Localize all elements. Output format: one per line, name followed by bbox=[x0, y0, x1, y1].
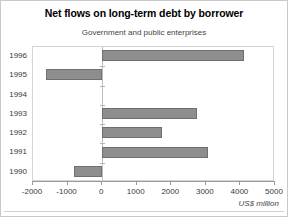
footer-divider bbox=[4, 211, 284, 212]
plot-area bbox=[32, 46, 274, 181]
zero-axis-tick bbox=[100, 124, 105, 125]
x-axis-line bbox=[32, 181, 274, 182]
zero-axis-tick bbox=[100, 163, 105, 164]
x-tick bbox=[205, 181, 206, 185]
bar-row bbox=[33, 163, 273, 182]
y-tick-label-1995: 1995 bbox=[9, 65, 27, 84]
y-tick-label-1996: 1996 bbox=[9, 46, 27, 65]
y-tick-label-1994: 1994 bbox=[9, 85, 27, 104]
x-tick bbox=[101, 181, 102, 185]
bar-1995 bbox=[46, 69, 102, 80]
x-tick bbox=[32, 181, 33, 185]
chart-subtitle: Government and public enterprises bbox=[1, 28, 287, 37]
y-tick-label-1991: 1991 bbox=[9, 142, 27, 161]
bar-row bbox=[33, 143, 273, 162]
bar-row bbox=[33, 105, 273, 124]
x-tick-label-5000: 5000 bbox=[254, 187, 288, 196]
x-tick bbox=[67, 181, 68, 185]
y-tick-label-1990: 1990 bbox=[9, 162, 27, 181]
bar-row bbox=[33, 66, 273, 85]
bar-row bbox=[33, 47, 273, 66]
zero-axis-tick bbox=[100, 86, 105, 87]
x-tick bbox=[136, 181, 137, 185]
bar-row bbox=[33, 124, 273, 143]
bar-1993 bbox=[102, 108, 196, 119]
zero-axis-tick bbox=[100, 143, 105, 144]
bar-1992 bbox=[102, 127, 162, 138]
chart-figure: Net flows on long-term debt by borrower … bbox=[0, 0, 288, 217]
x-axis-units-label: US$ million bbox=[239, 199, 279, 208]
bar-1991 bbox=[102, 147, 208, 158]
y-tick-label-1992: 1992 bbox=[9, 123, 27, 142]
x-tick bbox=[274, 181, 275, 185]
bar-row bbox=[33, 86, 273, 105]
y-axis-labels: 1996199519941993199219911990 bbox=[1, 46, 30, 181]
bar-1996 bbox=[102, 50, 244, 61]
zero-axis-tick bbox=[100, 105, 105, 106]
chart-title: Net flows on long-term debt by borrower bbox=[1, 7, 287, 19]
zero-axis-tick bbox=[100, 66, 105, 67]
bar-series bbox=[33, 47, 273, 180]
y-tick-label-1993: 1993 bbox=[9, 104, 27, 123]
x-tick bbox=[170, 181, 171, 185]
bar-1990 bbox=[74, 166, 102, 177]
x-tick bbox=[239, 181, 240, 185]
